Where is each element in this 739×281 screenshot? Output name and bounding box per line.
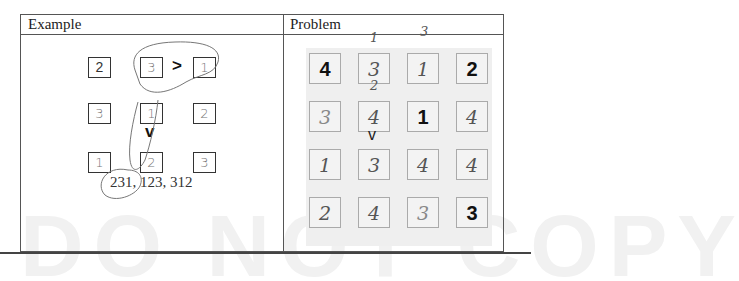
problem-cell[interactable]: 4 [456,149,488,180]
example-cell: 1 [88,152,111,173]
example-cell: 2 [88,57,111,78]
problem-cell[interactable]: 2 [456,53,488,84]
example-cell: 1 [140,103,163,124]
problem-cell[interactable]: 3 [407,197,439,228]
header-problem: Problem [290,16,341,33]
down-symbol: v [368,126,376,144]
example-cell: 2 [193,103,216,124]
down-symbol: v [145,122,154,142]
example-cell: 2 [140,152,163,173]
header-example: Example [28,16,81,33]
problem-cell[interactable]: 3 [358,149,390,180]
pencil-note: 2 [370,78,378,93]
pencil-note: 3 [420,24,428,39]
problem-cell[interactable]: 1 [407,101,439,132]
example-cell: 1 [193,57,216,78]
problem-cell[interactable]: 4 [407,149,439,180]
problem-cell[interactable]: 4 [456,101,488,132]
problem-cell[interactable]: 3 [456,197,488,228]
problem-cell[interactable]: 2 [309,197,341,228]
header-divider [21,34,503,35]
column-divider [283,15,284,251]
example-answers: 231, 123, 312 [110,174,193,191]
example-cell: 3 [140,57,163,78]
problem-cell[interactable]: 4 [358,197,390,228]
problem-cell[interactable]: 3 [309,101,341,132]
problem-cell[interactable]: 4 [309,53,341,84]
example-cell: 3 [88,103,111,124]
pencil-note: 1 [370,30,378,45]
problem-cell[interactable]: 1 [407,53,439,84]
greater-than-symbol: > [172,56,182,76]
example-cell: 3 [193,152,216,173]
problem-cell[interactable]: 1 [309,149,341,180]
bottom-rule [0,252,531,254]
